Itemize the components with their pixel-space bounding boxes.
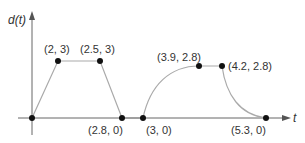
label-2.8-0: (2.8, 0)	[88, 124, 123, 136]
point-2.5-3	[97, 58, 103, 64]
y-axis-label: d(t)	[8, 13, 26, 27]
y-axis-arrow-icon	[29, 11, 35, 20]
label-4.2-2.8: (4.2, 2.8)	[228, 60, 272, 72]
point-5.3-0	[263, 115, 269, 121]
x-axis-arrow-icon	[282, 115, 291, 121]
point-4.2-2.8	[219, 63, 225, 69]
series-2-curve	[143, 66, 266, 118]
label-2.5-3: (2.5, 3)	[80, 43, 115, 55]
point-3.9-2.8	[196, 63, 202, 69]
series-1-line	[32, 61, 122, 118]
point-2.8-0	[119, 115, 125, 121]
point-2-3	[55, 58, 61, 64]
label-3.9-2.8: (3.9, 2.8)	[157, 51, 201, 63]
label-3-0: (3, 0)	[146, 124, 172, 136]
x-axis-label: t	[293, 111, 297, 125]
label-2-3: (2, 3)	[44, 43, 70, 55]
chart-canvas: d(t) t (2, 3) (2.5, 3) (2.8, 0) (3, 0) (…	[0, 0, 305, 143]
label-5.3-0: (5.3, 0)	[231, 124, 266, 136]
point-origin	[29, 115, 35, 121]
point-3-0	[140, 115, 146, 121]
